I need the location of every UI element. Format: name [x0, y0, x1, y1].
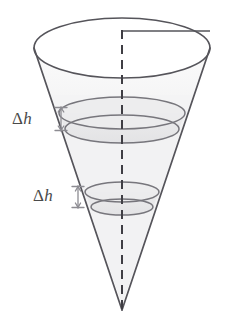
delta-h-label-upper: Δh	[12, 110, 32, 127]
delta-h-label-lower: Δh	[33, 187, 53, 204]
delta-symbol-upper: Δ	[12, 109, 23, 128]
h-variable-upper: h	[23, 109, 32, 128]
cone-diagram-svg	[0, 0, 232, 327]
h-variable-lower: h	[44, 186, 53, 205]
cone-figure: Δh Δh	[0, 0, 232, 327]
delta-symbol-lower: Δ	[33, 186, 44, 205]
